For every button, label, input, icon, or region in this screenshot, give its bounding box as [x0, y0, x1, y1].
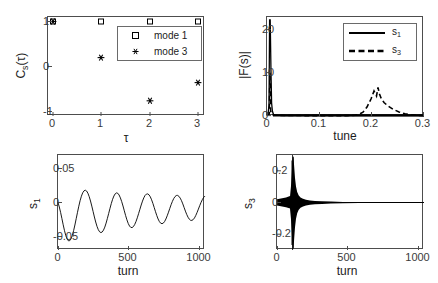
asterisk-marker-icon [122, 47, 148, 56]
yaxis-title-s3: s3 [241, 184, 256, 224]
ytick-autocorrelation-1: 1 [43, 15, 49, 27]
xtick-spectrum-0: 0 [263, 117, 269, 129]
legend-autocorrelation: mode 1 mode 3 [117, 26, 202, 61]
dashed-line-icon [348, 48, 386, 54]
ytick-s1-0p05: 0.05 [53, 162, 74, 174]
ytick-autocorrelation-0: 0 [43, 60, 49, 72]
legend-entry-s1: s1 [344, 24, 416, 42]
xtick-autocorrelation-3: 3 [194, 117, 200, 129]
ytick-spectrum-20: 20 [262, 23, 274, 35]
xaxis-title-tune: tune [333, 129, 356, 143]
ytick-s3-0p2: 0.2 [272, 164, 287, 176]
xtick-s1-500: 500 [118, 251, 136, 263]
yaxis-title-s1: s1 [26, 184, 41, 224]
xtick-autocorrelation-2: 2 [146, 117, 152, 129]
ytick-s1-0: 0 [53, 196, 59, 208]
legend-entry-mode-3: mode 3 [118, 44, 201, 61]
legend-entry-mode-1: mode 1 [118, 27, 201, 44]
series-s3-spikes [292, 155, 293, 250]
yaxis-title-s1-main: s [26, 203, 40, 209]
xtick-spectrum-0p2: 0.2 [363, 117, 378, 129]
xtick-autocorrelation-1: 1 [97, 117, 103, 129]
series-s3-preburst [277, 196, 291, 209]
yaxis-title-s1-sub: 1 [32, 198, 42, 203]
subplot-s3-timeseries: 0.2 0 -0.2 0 500 1000 turn s3 [219, 142, 438, 283]
ytick-autocorrelation-neg1: -1 [43, 105, 53, 117]
yaxis-title-spectrum: |F(s)| [237, 35, 251, 95]
s1-timeseries-data-layer [58, 155, 205, 250]
yaxis-title-sub: s [20, 66, 30, 70]
yaxis-title-main: C [14, 70, 28, 79]
solid-line-icon [348, 30, 386, 36]
legend-label-s3: s3 [386, 44, 401, 57]
legend-label-s1: s1 [386, 26, 401, 39]
axes-spectrum: s1 s3 [266, 16, 423, 115]
axes-s1-timeseries [57, 154, 204, 249]
xtick-s1-1000: 1000 [186, 251, 210, 263]
xtick-s1-0: 0 [54, 251, 60, 263]
xtick-s3-500: 500 [337, 251, 355, 263]
series-s3-curve [267, 72, 424, 116]
square-marker-icon [122, 32, 148, 39]
xtick-s3-1000: 1000 [405, 251, 429, 263]
legend-label-mode-3: mode 3 [148, 46, 187, 57]
xtick-s3-0: 0 [273, 251, 279, 263]
subplot-autocorrelation: mode 1 mode 3 [0, 0, 219, 142]
axes-autocorrelation: mode 1 mode 3 [47, 16, 204, 115]
xtick-spectrum-0p1: 0.1 [311, 117, 326, 129]
yaxis-title-arg: (τ) [14, 53, 28, 66]
legend-label-mode-1: mode 1 [148, 30, 187, 41]
figure-canvas: mode 1 mode 3 [0, 0, 438, 283]
xtick-autocorrelation-0: 0 [49, 117, 55, 129]
series-s1-damped-oscillation [58, 190, 205, 241]
ytick-s3-0: 0 [272, 196, 278, 208]
axes-s3-timeseries [276, 154, 423, 249]
s3-timeseries-data-layer [277, 155, 424, 250]
subplot-spectrum: s1 s3 20 10 0 0 0.1 [219, 0, 438, 142]
xaxis-title-turn-left: turn [118, 264, 139, 278]
yaxis-title-s3-sub: 3 [247, 198, 257, 203]
series-mode-1 [51, 19, 201, 24]
yaxis-title-autocorrelation: Cs(τ) [14, 36, 29, 96]
legend-entry-s3: s3 [344, 42, 416, 60]
ytick-spectrum-10: 10 [262, 66, 274, 78]
xaxis-title-turn-right: turn [337, 264, 358, 278]
subplot-s1-timeseries: 0.05 0 -0.05 0 500 1000 turn s1 [0, 142, 219, 283]
yaxis-title-s3-main: s [241, 203, 255, 209]
ytick-s1-neg0p05: -0.05 [53, 230, 78, 242]
ytick-s3-neg0p2: -0.2 [272, 227, 291, 239]
legend-spectrum: s1 s3 [343, 23, 417, 61]
xtick-spectrum-0p3: 0.3 [415, 117, 430, 129]
